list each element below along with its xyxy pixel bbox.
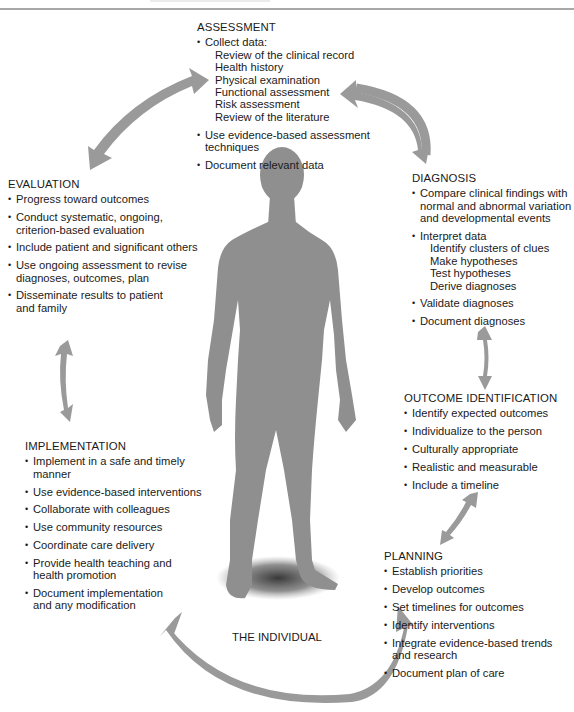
list-item: Document diagnoses [412,315,574,327]
list-item: Include a timeline [404,479,574,491]
list-item: Use evidence-based assessment techniques [197,129,375,154]
list-item: Conduct systematic, ongoing, criterion-b… [8,211,166,236]
list-item: Culturally appropriate [404,443,574,455]
list-item: Develop outcomes [384,583,574,595]
bullet-list: Identify expected outcomes Individualize… [404,407,574,491]
sub-item: Review of the literature [205,111,397,123]
list-item: Document plan of care [384,667,574,679]
section-evaluation: EVALUATION Progress toward outcomes Cond… [8,178,213,320]
list-item: Coordinate care delivery [25,539,225,551]
arrow-assessment-evaluation-icon [88,68,209,170]
list-item: Interpret data Identify clusters of clue… [412,230,574,292]
list-item: Document relevant data [197,159,397,171]
list-item: Document implementation and any modifica… [25,587,183,612]
list-item: Use ongoing assessment to revise diagnos… [8,259,196,284]
header-caption-fragment [150,0,270,2]
section-title: PLANNING [384,550,574,562]
list-item: Individualize to the person [404,425,574,437]
list-item: Include patient and significant others [8,241,213,253]
bullet-list: Establish priorities Develop outcomes Se… [384,565,574,679]
bullet-list: Compare clinical findings with normal an… [412,187,574,327]
sub-item: Risk assessment [205,98,397,110]
bullet-list: Collect data: Review of the clinical rec… [197,36,397,171]
section-title: EVALUATION [8,178,213,190]
sub-item: Derive diagnoses [420,280,574,292]
list-item: Provide health teaching and health promo… [25,557,203,582]
list-item: Collaborate with colleagues [25,503,225,515]
list-item: Progress toward outcomes [8,193,213,205]
section-implementation: IMPLEMENTATION Implement in a safe and t… [25,440,225,617]
sub-item: Make hypotheses [420,255,574,267]
arrow-diagnosis-outcome-icon [477,326,492,390]
arrow-implementation-planning-icon [160,606,414,703]
sub-item: Functional assessment [205,86,397,98]
list-item: Use evidence-based interventions [25,486,225,498]
list-item: Compare clinical findings with normal an… [412,187,574,224]
section-assessment: ASSESSMENT Collect data: Review of the c… [197,21,397,177]
sub-item: Review of the clinical record [205,49,397,61]
list-item: Identify interventions [384,619,574,631]
sub-item: Health history [205,61,397,73]
list-item: Collect data: Review of the clinical rec… [197,36,397,123]
list-item: Identify expected outcomes [404,407,574,419]
section-diagnosis: DIAGNOSIS Compare clinical findings with… [412,172,574,333]
list-item: Establish priorities [384,565,574,577]
sub-item: Identify clusters of clues [420,242,574,254]
arrow-evaluation-implementation-icon [55,340,73,422]
sub-item: Physical examination [205,74,397,86]
bullet-list: Progress toward outcomes Conduct systema… [8,193,213,314]
center-label: THE INDIVIDUAL [232,631,322,643]
sub-item: Test hypotheses [420,267,574,279]
section-title: ASSESSMENT [197,21,397,33]
list-item: Use community resources [25,521,225,533]
section-title: OUTCOME IDENTIFICATION [404,392,574,404]
human-figure-icon [206,147,356,598]
bullet-list: Implement in a safe and timely manner Us… [25,455,225,611]
list-item: Realistic and measurable [404,461,574,473]
section-planning: PLANNING Establish priorities Develop ou… [384,550,574,685]
list-item: Integrate evidence-based trends and rese… [384,637,557,662]
list-item: Implement in a safe and timely manner [25,455,225,480]
list-item: Disseminate results to patient and famil… [8,289,166,314]
list-item: Set timelines for outcomes [384,601,574,613]
list-item: Validate diagnoses [412,297,574,309]
arrow-outcome-planning-icon [440,492,478,545]
section-title: DIAGNOSIS [412,172,574,184]
section-title: IMPLEMENTATION [25,440,225,452]
section-outcome-identification: OUTCOME IDENTIFICATION Identify expected… [404,392,574,496]
